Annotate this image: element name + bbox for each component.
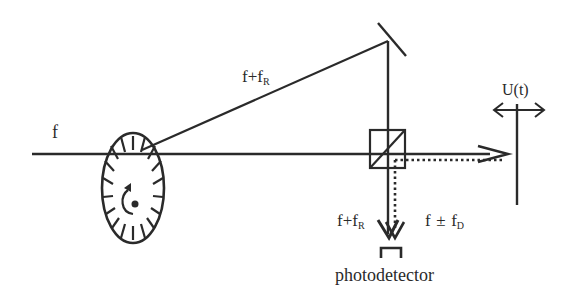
detector-reference-label-main: f+f [337, 211, 358, 230]
rotation-arrow-icon [123, 190, 133, 214]
reference-beam-label-sub: R [263, 76, 270, 87]
optical-setup-diagram [0, 0, 570, 305]
mirror [378, 23, 406, 56]
reference-beam-label-main: f+f [242, 67, 263, 86]
doppler-signal-label-a: f [425, 211, 431, 230]
detector-reference-label: f+fR [337, 212, 365, 231]
doppler-signal-label: f ± fD [425, 212, 464, 231]
diffracted-beam [142, 41, 388, 150]
photodetector-label: photodetector [335, 266, 434, 284]
target-motion-label: U(t) [502, 82, 529, 98]
grating-axis [132, 201, 139, 208]
reference-beam-label: f+fR [242, 68, 270, 87]
doppler-signal-label-sub: D [457, 220, 464, 231]
rotating-grating [102, 133, 164, 243]
detector-reference-label-sub: R [358, 220, 365, 231]
photodetector-icon [381, 248, 401, 258]
plus-minus-sign: ± [435, 212, 447, 229]
input-beam-label: f [52, 123, 58, 141]
